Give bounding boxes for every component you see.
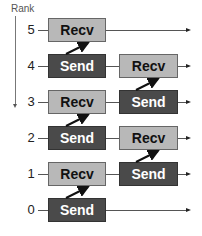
- message-arrow-4-to-5: [66, 43, 88, 54]
- message-arrow-3-to-4: [136, 79, 158, 90]
- send-recv-diagram: Rank 5 Recv 4 Send Recv 3 Recv Send 2 Se…: [0, 0, 202, 236]
- message-arrow-2-to-3: [66, 115, 88, 126]
- message-arrow-0-to-1: [66, 187, 88, 198]
- message-arrow-1-to-2: [136, 151, 158, 162]
- message-arrows: [0, 0, 202, 236]
